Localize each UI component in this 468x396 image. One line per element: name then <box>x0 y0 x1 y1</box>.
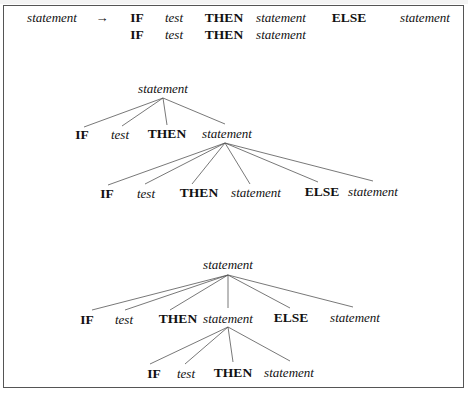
tree2-nested-child: statement <box>264 366 314 380</box>
tree1-root: statement <box>138 82 188 96</box>
tree2-nested-child: test <box>177 367 195 381</box>
tree2-child: test <box>115 313 133 327</box>
rule-alt2-token: THEN <box>205 28 243 42</box>
rule-alt2-token: IF <box>130 28 144 42</box>
rule-alt2-token: statement <box>256 28 306 42</box>
tree2-root: statement <box>203 258 253 272</box>
tree2-child: IF <box>80 313 94 327</box>
tree1-nested-child: test <box>137 187 155 201</box>
tree2-child: THEN <box>159 312 197 326</box>
tree2-nested-child: IF <box>147 367 161 381</box>
rule-alt1-token: statement <box>256 11 306 25</box>
tree2-child: statement <box>330 311 380 325</box>
tree2-child-nested-parent: statement <box>203 312 253 326</box>
tree1-nested-child: statement <box>231 186 281 200</box>
rule-alt1-token: IF <box>130 11 144 25</box>
rule-alt1-token: test <box>165 11 183 25</box>
tree1-nested-child: IF <box>100 187 114 201</box>
rule-alt2-token: test <box>165 28 183 42</box>
rule-alt1-token: ELSE <box>332 11 367 25</box>
rule-alt1-token: THEN <box>205 11 243 25</box>
tree1-nested-child: THEN <box>180 186 218 200</box>
rule-alt1-token: statement <box>400 11 450 25</box>
tree2-nested-child: THEN <box>214 366 252 380</box>
tree1-child-nested-parent: statement <box>202 127 252 141</box>
tree1-child: IF <box>75 128 89 142</box>
tree2-child: ELSE <box>274 311 309 325</box>
tree1-child: THEN <box>148 127 186 141</box>
rule-arrow: → <box>96 11 109 25</box>
tree1-child: test <box>111 128 129 142</box>
tree1-nested-child: ELSE <box>305 185 340 199</box>
rule-lhs: statement <box>27 11 77 25</box>
tree1-nested-child: statement <box>348 185 398 199</box>
